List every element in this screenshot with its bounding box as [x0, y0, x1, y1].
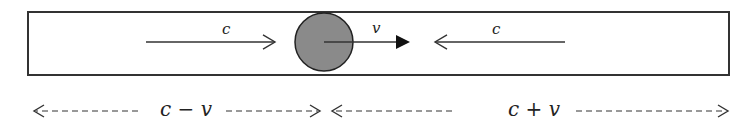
dashed-arrow-left-seg-left [34, 105, 138, 117]
labels: c v c c − v c + v [160, 19, 561, 121]
arrow-label-v: v [372, 19, 381, 37]
dashed-arrow-right-seg-right [576, 105, 728, 117]
diagram: c v c c − v c + v [0, 0, 755, 133]
segment-label-c-plus-v: c + v [508, 97, 561, 121]
segment-label-c-minus-v: c − v [160, 97, 213, 121]
dashed-arrow-left-seg-right [226, 105, 320, 117]
bottom-dashed-arrows [34, 105, 728, 117]
arrow-light-left [146, 35, 275, 49]
dashed-arrow-right-seg-left [332, 105, 452, 117]
arrow-label-c-left: c [222, 20, 231, 38]
arrow-label-c-right: c [492, 20, 501, 38]
tube-arrows [146, 35, 565, 49]
